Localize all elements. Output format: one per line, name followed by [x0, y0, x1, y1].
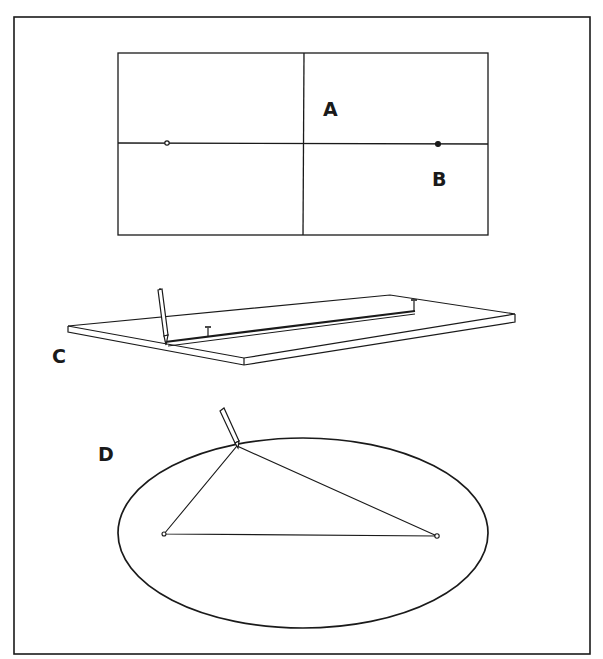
panel-c-board [68, 288, 515, 365]
pencil-icon [220, 408, 239, 448]
panel-ab-rectangle [118, 53, 488, 235]
focus-left [165, 141, 169, 145]
ellipse [118, 438, 488, 628]
label-b: B [432, 168, 446, 190]
major-axis [118, 143, 488, 144]
label-a: A [323, 98, 338, 120]
string-triangle [164, 446, 437, 536]
focus-right [436, 142, 441, 147]
ellipse-construction-diagram: A B C D [0, 0, 603, 659]
panel-d-ellipse [118, 408, 488, 628]
outer-frame [14, 17, 590, 654]
label-d: D [98, 443, 114, 465]
label-c: C [52, 345, 66, 367]
